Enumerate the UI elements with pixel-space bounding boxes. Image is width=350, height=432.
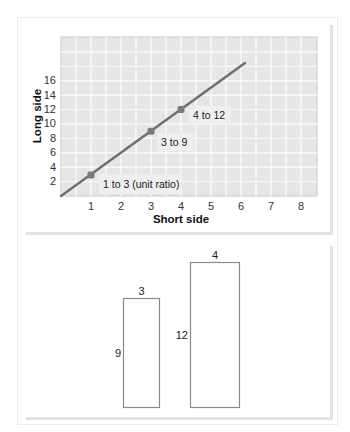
rectangles-diagram: 3 9 4 12 xyxy=(0,0,350,432)
rect-small-top-label: 3 xyxy=(138,285,144,297)
rect-large-top-label: 4 xyxy=(212,249,218,261)
rect-large-side-label: 12 xyxy=(176,329,188,341)
rectangle-4-by-12: 4 12 xyxy=(176,249,240,408)
rectangle-3-by-9: 3 9 xyxy=(115,285,160,408)
rect-small-side-label: 9 xyxy=(115,347,121,359)
